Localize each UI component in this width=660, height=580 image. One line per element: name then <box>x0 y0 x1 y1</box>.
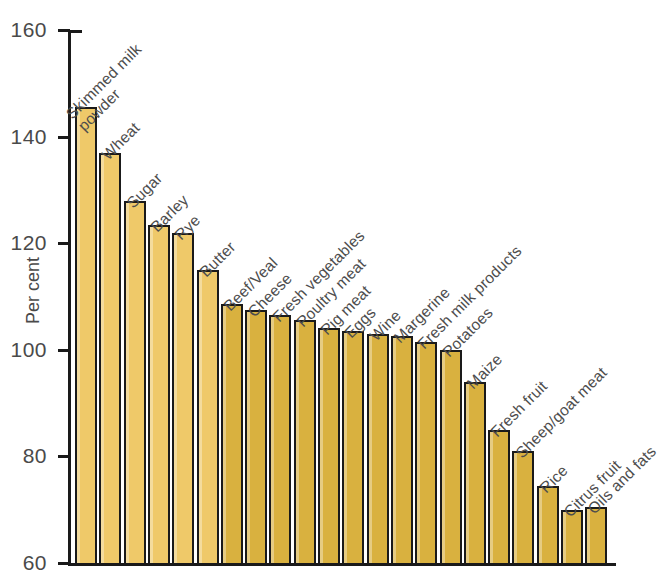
bar-highlight <box>199 272 202 563</box>
bar <box>172 233 194 565</box>
bar <box>464 382 486 565</box>
bar-highlight <box>466 384 469 563</box>
bar-highlight <box>344 333 347 563</box>
bar-highlight <box>563 512 566 563</box>
bar-highlight <box>490 432 493 563</box>
bar <box>342 331 364 565</box>
bar <box>99 153 121 565</box>
bar-highlight <box>271 317 274 563</box>
bar-highlight <box>77 109 80 563</box>
bar <box>537 486 559 565</box>
bar-highlight <box>150 227 153 563</box>
bar-highlight <box>223 306 226 563</box>
bar-highlight <box>587 509 590 563</box>
bar <box>148 225 170 565</box>
bar-highlight <box>514 453 517 563</box>
bar-highlight <box>539 488 542 563</box>
bar-highlight <box>247 312 250 563</box>
bar-highlight <box>369 336 372 563</box>
bar <box>124 201 146 565</box>
bar-highlight <box>442 352 445 563</box>
bar <box>391 336 413 565</box>
bar <box>245 310 267 565</box>
bar-highlight <box>393 338 396 563</box>
bar-highlight <box>320 330 323 563</box>
bar <box>318 328 340 565</box>
bar-highlight <box>174 235 177 563</box>
bar <box>415 342 437 565</box>
bar <box>75 107 97 565</box>
bar <box>440 350 462 565</box>
bar <box>269 315 291 565</box>
bar-highlight <box>126 203 129 563</box>
bar-highlight <box>101 155 104 563</box>
bar <box>294 320 316 565</box>
bar <box>197 270 219 565</box>
bar <box>488 430 510 565</box>
bar <box>221 304 243 565</box>
bar <box>512 451 534 565</box>
bar-highlight <box>296 322 299 563</box>
bar <box>367 334 389 565</box>
bar-highlight <box>417 344 420 563</box>
